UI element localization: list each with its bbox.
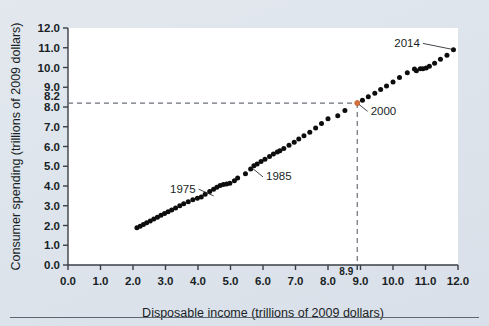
y-tick-label: 2.0 [44,220,60,232]
data-point [372,91,377,96]
x-tick-label: 0.0 [60,275,76,287]
data-point [427,64,432,69]
y-tick-label: 11.0 [38,42,60,54]
y-tick-label: 4.0 [44,180,60,192]
figure-container: 0.01.02.03.04.05.06.07.08.09.010.011.012… [0,0,489,326]
data-point [181,201,186,206]
y-tick-label: 8.0 [44,101,60,113]
x-tick-label: 2.0 [125,275,141,287]
data-point [326,116,331,121]
y-tick-label: 7.0 [44,121,60,133]
data-point [281,146,286,151]
x-tick-label: 5.0 [223,275,239,287]
data-point [444,53,449,58]
data-point [227,181,232,186]
x-tick-label: 4.0 [190,275,206,287]
data-point [301,133,306,138]
y-axis-title: Consumer spending (trillions of 2009 dol… [9,22,23,270]
data-point [235,176,240,181]
data-point [384,84,389,89]
data-point [307,130,312,135]
data-point [342,108,347,113]
x-tick-label: 11.0 [415,275,437,287]
data-point [292,140,297,145]
data-point [287,143,292,148]
annotation-label-1985: 1985 [266,170,292,182]
data-point [432,61,437,66]
data-point [360,98,365,103]
footer-rule [10,317,479,318]
data-point [319,121,324,126]
y-tick-label: 6.0 [44,141,60,153]
annotation-label-2014: 2014 [394,37,420,49]
data-point [366,94,371,99]
annotation-label-1975: 1975 [170,183,196,195]
y-tick-label: 1.0 [44,239,60,251]
y-axis-ticks: 0.01.02.03.04.05.06.07.08.09.010.011.012… [38,22,68,271]
data-point [313,125,318,130]
x-tick-label: 6.0 [255,275,271,287]
x-tick-label: 9.0 [353,275,369,287]
annotation-label-2000: 2000 [371,105,397,117]
data-point [296,136,301,141]
scatter-chart: 0.01.02.03.04.05.06.07.08.09.010.011.012… [0,0,489,326]
data-point [397,75,402,80]
x-tick-label: 7.0 [288,275,304,287]
x-tick-label-special: 8.9 [339,266,353,277]
y-tick-label-special: 8.2 [44,90,60,102]
y-tick-label: 5.0 [44,160,60,172]
y-tick-label: 10.0 [38,62,60,74]
x-tick-label: 3.0 [158,275,174,287]
x-tick-label: 1.0 [93,275,109,287]
data-point [243,171,248,176]
plot-area-background [68,28,458,265]
data-point [262,157,267,162]
x-tick-label: 12.0 [447,275,469,287]
y-tick-label: 0.0 [44,259,60,271]
data-point [173,205,178,210]
data-point [438,57,443,62]
y-tick-label: 12.0 [38,22,60,34]
y-tick-label: 3.0 [44,200,60,212]
data-point [186,199,191,204]
data-point [378,87,383,92]
x-tick-label: 10.0 [382,275,404,287]
data-point [391,80,396,85]
data-point [190,197,195,202]
x-tick-label: 8.0 [320,275,336,287]
x-axis-ticks: 0.01.02.03.04.05.06.07.08.09.010.011.012… [60,265,469,287]
data-point [405,70,410,75]
data-point [451,47,456,52]
data-point [335,113,340,118]
